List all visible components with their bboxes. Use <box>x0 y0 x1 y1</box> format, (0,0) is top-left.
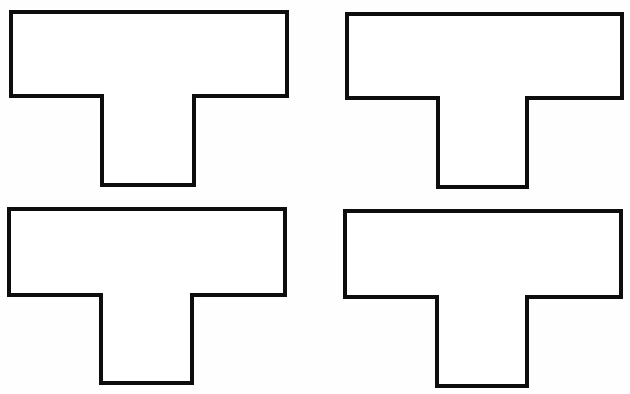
t-shapes-diagram <box>0 0 630 394</box>
t-shape-top-right <box>347 14 622 187</box>
t-shape-top-left <box>11 12 287 185</box>
t-shape-bottom-right <box>345 211 621 386</box>
t-shape-bottom-left <box>9 209 285 383</box>
worksheet-canvas <box>0 0 630 394</box>
